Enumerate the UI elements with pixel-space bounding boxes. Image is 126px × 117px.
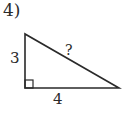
horizontal-leg-label: 4 [53,90,63,108]
vertical-leg-label: 3 [10,49,20,67]
hypotenuse-label: ? [65,42,73,58]
right-angle-marker [25,80,33,88]
right-triangle-diagram: 3 4 ? [0,0,126,117]
